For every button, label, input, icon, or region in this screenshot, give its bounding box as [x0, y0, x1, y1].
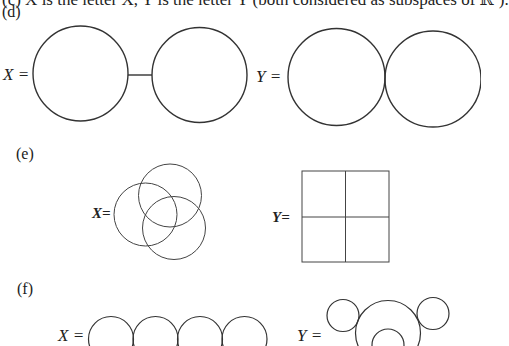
part-e-x-figure [114, 164, 206, 260]
part-f-y-figure [327, 298, 449, 346]
part-f-x-figure [89, 317, 268, 346]
part-e-y-figure [302, 171, 389, 262]
part-d-y-figure [288, 29, 481, 128]
part-d-x-figure [33, 26, 247, 123]
